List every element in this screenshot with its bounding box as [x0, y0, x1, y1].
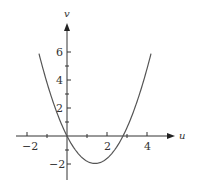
- y-ticks: [65, 52, 71, 164]
- xtick-label-2: 2: [104, 140, 111, 153]
- xtick-label-4: 4: [144, 140, 151, 153]
- x-axis-arrow-icon: [167, 133, 175, 139]
- xtick-label-neg2: −2: [22, 140, 38, 153]
- ytick-label-4: 4: [56, 74, 63, 87]
- ytick-label-6: 6: [56, 46, 63, 59]
- ytick-label-neg2: −2: [49, 158, 65, 171]
- x-ticks: [27, 132, 147, 138]
- y-axis-label: v: [64, 8, 70, 19]
- chart-canvas: −2 2 4 6 4 2 −2 v u: [0, 0, 197, 190]
- parabola-curve: [39, 54, 151, 164]
- y-axis-arrow-icon: [64, 23, 70, 31]
- x-axis-label: u: [179, 130, 185, 141]
